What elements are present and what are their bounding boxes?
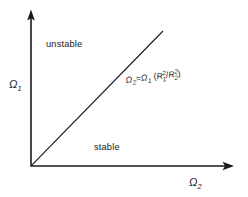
y-axis-label-subscript: 1 (18, 84, 22, 93)
stability-diagram-figure: Ω1 Ω2 unstable stable Ω2=Ω1(R21/R22) (0, 0, 248, 197)
figure-canvas: Ω1 Ω2 unstable stable Ω2=Ω1(R21/R22) (0, 0, 248, 197)
x-axis-label-subscript: 2 (197, 182, 202, 191)
eqn-rhs-subscript: 1 (148, 76, 152, 83)
x-axis-label-symbol: Ω (189, 176, 198, 188)
eqn-close-paren: ) (177, 68, 181, 78)
x-axis-label: Ω2 (189, 176, 202, 191)
boundary-equation: Ω2=Ω1(R21/R22) (125, 67, 182, 87)
y-axis-label: Ω1 (9, 78, 22, 93)
region-label-stable: stable (94, 142, 120, 152)
boundary-equation-text: Ω2=Ω1(R21/R22) (125, 67, 182, 87)
region-label-unstable: unstable (46, 39, 82, 49)
y-axis-label-symbol: Ω (9, 78, 18, 90)
